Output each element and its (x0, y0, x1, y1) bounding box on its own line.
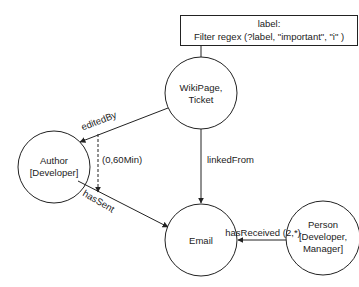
node-person-label-2: [Developer, (299, 231, 347, 242)
node-author[interactable]: Author [Developer] (18, 131, 90, 203)
node-person[interactable]: Person [Developer, Manager] (286, 201, 359, 275)
edge-time-constraint-label: (0,60Min) (102, 154, 142, 165)
filter-box-line2: Filter regex (?label, "important", "i" ) (194, 31, 344, 42)
node-person-label-3: Manager] (303, 243, 343, 254)
filter-box-line1: label: (258, 18, 281, 29)
query-graph-diagram: label: Filter regex (?label, "important"… (0, 0, 359, 287)
edge-editedBy[interactable]: editedBy (80, 108, 168, 142)
edge-linkedFrom[interactable]: linkedFrom (201, 129, 254, 203)
edge-hasSent[interactable]: hasSent (78, 181, 168, 227)
node-author-label-2: [Developer] (30, 167, 79, 178)
node-wikipage-ticket[interactable]: WikiPage, Ticket (165, 57, 237, 129)
filter-annotation-box: label: Filter regex (?label, "important"… (181, 16, 358, 46)
edge-time-constraint[interactable]: (0,60Min) (98, 134, 142, 192)
node-person-label-1: Person (308, 219, 338, 230)
edge-linkedFrom-label: linkedFrom (207, 154, 254, 165)
node-wikipage-label-1: WikiPage, (180, 82, 223, 93)
node-email[interactable]: Email (165, 204, 237, 276)
edge-hasReceived-label: hasReceived (2,*) (225, 227, 301, 238)
node-email-label: Email (189, 235, 213, 246)
node-author-label-1: Author (40, 155, 68, 166)
node-wikipage-label-2: Ticket (189, 94, 214, 105)
